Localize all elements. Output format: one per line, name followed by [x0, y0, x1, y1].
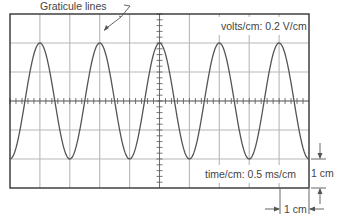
graticule-callout-label: Graticule lines: [40, 0, 107, 12]
arrow-right-icon: [274, 207, 280, 212]
volts-per-cm-label: volts/cm: 0.2 V/cm: [221, 20, 307, 32]
vertical-1cm-label: 1 cm: [311, 167, 334, 179]
oscilloscope-screen-diagram: Graticule lines volts/cm: 0.2 V/cm time/…: [0, 0, 339, 218]
callout-arrowhead-icon: [104, 25, 109, 31]
arrow-left-icon: [309, 207, 315, 212]
callout-arrow-icon: [104, 5, 130, 30]
time-per-cm-label: time/cm: 0.5 ms/cm: [205, 168, 296, 180]
arrow-down-icon: [318, 153, 323, 159]
horizontal-1cm-label: 1 cm: [284, 203, 307, 215]
arrow-up-icon: [318, 188, 323, 194]
